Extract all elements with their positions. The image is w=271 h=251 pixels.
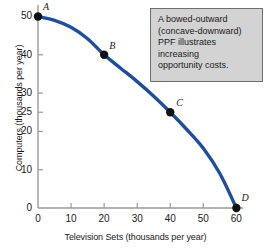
data-point-c	[166, 108, 174, 116]
data-point-d	[232, 204, 240, 212]
x-axis-ticks	[71, 203, 236, 208]
x-tick-label: 20	[92, 213, 116, 224]
point-label-c: C	[176, 97, 183, 108]
x-tick-label: 60	[224, 213, 248, 224]
y-axis-title: Computers (thousands per year)	[14, 8, 24, 208]
point-label-b: B	[109, 40, 115, 51]
ppf-chart-figure: 0102025304050 0102030405060 ABCD Compute…	[0, 0, 271, 251]
x-tick-label: 40	[158, 213, 182, 224]
x-tick-label: 50	[191, 213, 215, 224]
x-tick-label: 30	[125, 213, 149, 224]
point-label-a: A	[43, 1, 49, 12]
annotation-callout-box: A bowed-outward (concave-downward) PPF i…	[150, 8, 263, 82]
data-point-b	[100, 51, 108, 59]
annotation-text: A bowed-outward (concave-downward) PPF i…	[158, 14, 257, 72]
point-label-d: D	[241, 192, 248, 203]
x-tick-label: 10	[59, 213, 83, 224]
y-axis-ticks	[38, 16, 43, 169]
data-point-a	[34, 12, 42, 20]
x-tick-label: 0	[26, 213, 50, 224]
x-axis-title: Television Sets (thousands per year)	[0, 232, 271, 242]
